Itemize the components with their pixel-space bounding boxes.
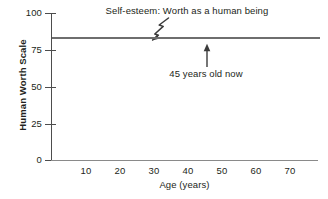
x-axis-label-50: 50 <box>207 166 237 176</box>
x-axis-label-70: 70 <box>275 166 305 176</box>
y-axis-title: Human Worth Scale <box>18 15 28 155</box>
y-axis-tick-50 <box>45 87 56 88</box>
x-axis-label-30: 30 <box>139 166 169 176</box>
y-axis-tick-75 <box>45 50 56 51</box>
y-axis-label-0: 0 <box>2 155 42 165</box>
series-line-human-worth <box>52 37 320 39</box>
x-axis-title: Age (years) <box>51 180 318 190</box>
up-arrow-icon <box>196 43 218 67</box>
y-axis-tick-25 <box>45 124 56 125</box>
age-annotation-label: 45 years old now <box>131 68 281 79</box>
chart-figure: Self-esteem: Worth as a human being 100 … <box>0 0 328 199</box>
x-axis-label-20: 20 <box>105 166 135 176</box>
chart-title: Self-esteem: Worth as a human being <box>62 5 312 16</box>
y-axis-tick-100 <box>45 13 56 14</box>
x-axis-label-40: 40 <box>173 166 203 176</box>
x-axis-line <box>51 160 318 161</box>
x-axis-label-60: 60 <box>241 166 271 176</box>
x-axis-label-10: 10 <box>71 166 101 176</box>
